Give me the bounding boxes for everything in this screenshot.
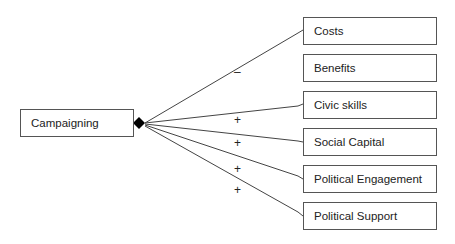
edge-political-support: [145, 126, 303, 216]
target-label: Social Capital: [314, 136, 384, 148]
target-box-civic-skills: Civic skills: [303, 91, 437, 119]
sign-social-capital: +: [234, 137, 241, 149]
source-label: Campaigning: [31, 117, 99, 129]
target-label: Political Support: [314, 210, 397, 222]
sign-political-support: +: [234, 184, 241, 196]
target-label: Costs: [314, 25, 343, 37]
target-box-political-support: Political Support: [303, 202, 437, 230]
target-box-benefits: Benefits: [303, 54, 437, 82]
target-box-costs: Costs: [303, 17, 437, 45]
source-box-campaigning: Campaigning: [20, 109, 134, 137]
target-label: Political Engagement: [314, 173, 422, 185]
edge-civic-skills: [145, 104, 303, 123]
target-box-political-engagement: Political Engagement: [303, 165, 437, 193]
sign-costs: –: [234, 66, 241, 78]
target-label: Civic skills: [314, 99, 367, 111]
sign-civic-skills: +: [234, 114, 241, 126]
edge-costs: [145, 30, 303, 123]
target-box-social-capital: Social Capital: [303, 128, 437, 156]
diamond-icon: [133, 117, 145, 129]
sign-political-engagement: +: [234, 163, 241, 175]
target-label: Benefits: [314, 62, 356, 74]
